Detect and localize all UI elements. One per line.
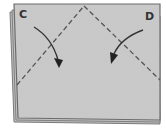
corner-label-d: D [145, 10, 154, 23]
corner-label-c: C [19, 8, 27, 21]
